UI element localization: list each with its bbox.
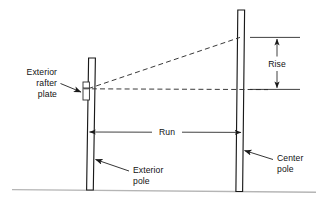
rise-dimension: Rise (250, 37, 300, 89)
exterior-pole-leader (96, 160, 130, 172)
center-pole-leader (245, 151, 274, 160)
figure-canvas: Rise Run Exterior rafter plate Exterior … (0, 0, 327, 200)
exterior-rafter-plate-label-line2: rafter (36, 78, 57, 88)
exterior-rafter-plate (83, 82, 89, 100)
exterior-rafter-plate-leader (61, 84, 82, 93)
rafter-slope-line (88, 37, 240, 88)
center-pole-label-line1: Center (277, 153, 303, 163)
center-pole-label-line2: pole (277, 164, 294, 174)
exterior-rafter-plate-callout: Exterior rafter plate (27, 67, 81, 99)
center-pole (236, 10, 245, 192)
run-label: Run (159, 127, 175, 137)
rise-label: Rise (268, 59, 286, 69)
exterior-rafter-plate-label-line3: plate (38, 89, 57, 99)
center-pole-callout: Center pole (245, 151, 304, 175)
rafter-rise-run-diagram: Rise Run Exterior rafter plate Exterior … (0, 0, 327, 200)
exterior-pole-label-line2: pole (133, 176, 150, 186)
ground-line (12, 190, 316, 193)
exterior-pole (87, 58, 96, 190)
run-dimension: Run (90, 127, 242, 137)
exterior-pole-label-line1: Exterior (133, 165, 163, 175)
exterior-pole-callout: Exterior pole (96, 160, 164, 187)
exterior-rafter-plate-label-line1: Exterior (27, 67, 57, 77)
